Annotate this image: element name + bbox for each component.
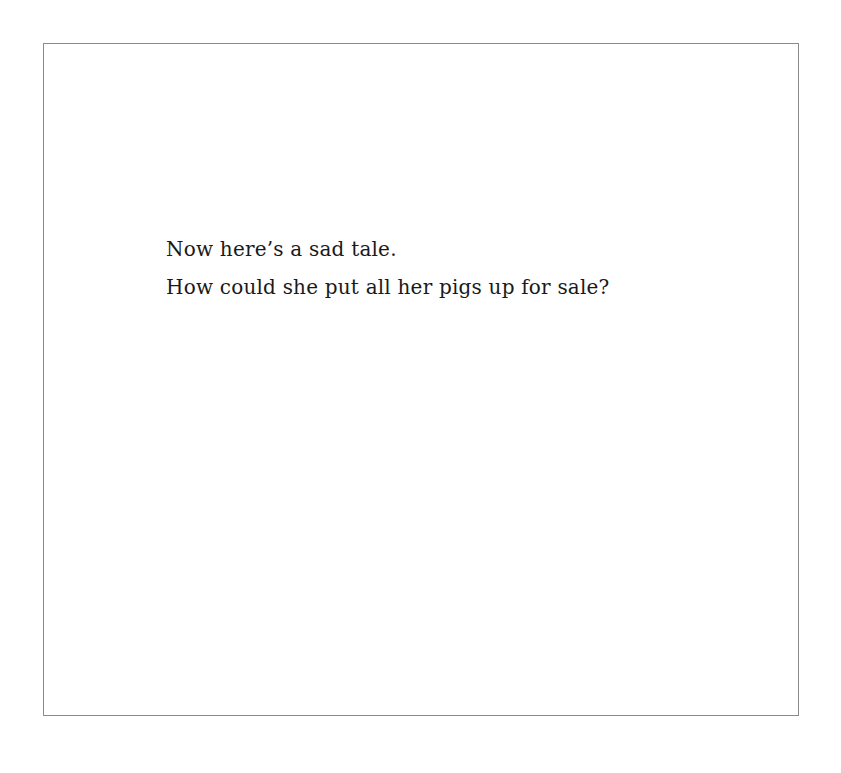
verse-line-1: Now here’s a sad tale. — [166, 230, 610, 268]
page-frame: Now here’s a sad tale. How could she put… — [43, 43, 799, 716]
verse-line-2: How could she put all her pigs up for sa… — [166, 268, 610, 306]
verse-text: Now here’s a sad tale. How could she put… — [166, 230, 610, 306]
